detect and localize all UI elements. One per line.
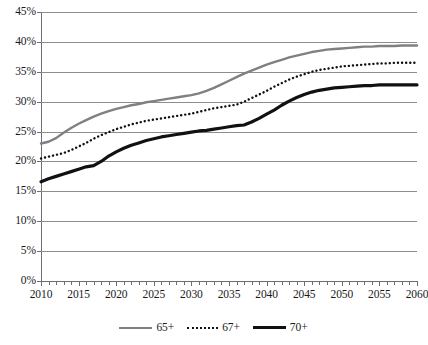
x-tick-2058 xyxy=(402,281,403,285)
legend-item-65plus[interactable]: 65+ xyxy=(119,322,174,334)
x-tick-2043 xyxy=(289,281,290,285)
x-tick-2041 xyxy=(274,281,275,285)
y-axis-label-25: 25% xyxy=(15,126,41,138)
x-tick-2042 xyxy=(282,281,283,285)
x-axis-label-2055: 2055 xyxy=(368,289,391,301)
y-axis-label-5: 5% xyxy=(21,245,41,257)
x-tick-2048 xyxy=(327,281,328,285)
x-tick-2019 xyxy=(109,281,110,285)
x-tick-2056 xyxy=(387,281,388,285)
x-axis-label-2025: 2025 xyxy=(142,289,165,301)
legend-line-swatch-70plus xyxy=(253,326,286,329)
x-tick-2011 xyxy=(49,281,50,285)
legend-line-swatch-65plus xyxy=(119,327,152,329)
y-axis-label-30: 30% xyxy=(15,96,41,108)
data-series-layer xyxy=(41,12,417,281)
x-axis-label-2060: 2060 xyxy=(406,289,428,301)
x-tick-2033 xyxy=(214,281,215,285)
x-tick-2055 xyxy=(379,281,380,286)
x-axis-label-2050: 2050 xyxy=(330,289,353,301)
y-axis-label-45: 45% xyxy=(15,6,41,18)
x-tick-2016 xyxy=(86,281,87,285)
legend-label-65plus: 65+ xyxy=(156,322,174,334)
series-line-67plus xyxy=(41,63,417,159)
x-tick-2047 xyxy=(319,281,320,285)
x-tick-2031 xyxy=(199,281,200,285)
x-tick-2040 xyxy=(267,281,268,286)
x-tick-2035 xyxy=(229,281,230,286)
x-tick-2044 xyxy=(297,281,298,285)
legend-label-67plus: 67+ xyxy=(222,322,240,334)
x-axis-label-2020: 2020 xyxy=(105,289,128,301)
x-tick-2026 xyxy=(161,281,162,285)
y-axis-label-40: 40% xyxy=(15,36,41,48)
x-tick-2024 xyxy=(146,281,147,285)
legend-item-70plus[interactable]: 70+ xyxy=(253,322,308,334)
x-tick-2052 xyxy=(357,281,358,285)
y-axis-label-20: 20% xyxy=(15,156,41,168)
series-line-65plus xyxy=(41,45,417,143)
x-tick-2010 xyxy=(41,281,42,286)
x-tick-2049 xyxy=(334,281,335,285)
x-tick-2050 xyxy=(342,281,343,286)
chart-legend: 65+ 67+ 70+ xyxy=(0,322,427,334)
x-tick-2018 xyxy=(101,281,102,285)
x-tick-2036 xyxy=(237,281,238,285)
x-tick-2038 xyxy=(252,281,253,285)
legend-line-swatch-67plus xyxy=(187,327,218,329)
y-axis-label-35: 35% xyxy=(15,66,41,78)
x-tick-2037 xyxy=(244,281,245,285)
x-tick-2015 xyxy=(79,281,80,286)
x-axis-label-2010: 2010 xyxy=(30,289,53,301)
x-tick-2025 xyxy=(154,281,155,286)
x-tick-2059 xyxy=(409,281,410,285)
x-tick-2013 xyxy=(64,281,65,285)
legend-label-70plus: 70+ xyxy=(290,322,308,334)
x-tick-2051 xyxy=(349,281,350,285)
x-axis-label-2045: 2045 xyxy=(293,289,316,301)
x-axis-label-2035: 2035 xyxy=(218,289,241,301)
x-tick-2039 xyxy=(259,281,260,285)
plot-area: 45%40%35%30%25%20%15%10%5%0% 20102015202… xyxy=(41,12,417,281)
x-axis-label-2040: 2040 xyxy=(255,289,278,301)
x-tick-2020 xyxy=(116,281,117,286)
x-tick-2046 xyxy=(312,281,313,285)
x-tick-2057 xyxy=(394,281,395,285)
x-tick-2027 xyxy=(169,281,170,285)
x-tick-2030 xyxy=(191,281,192,286)
x-tick-2054 xyxy=(372,281,373,285)
x-tick-2012 xyxy=(56,281,57,285)
x-tick-2045 xyxy=(304,281,305,286)
y-axis-label-15: 15% xyxy=(15,186,41,198)
legend-item-67plus[interactable]: 67+ xyxy=(187,322,240,334)
x-tick-2021 xyxy=(124,281,125,285)
series-line-70plus xyxy=(41,85,417,182)
x-tick-2023 xyxy=(139,281,140,285)
y-axis-label-0: 0% xyxy=(21,275,41,287)
x-axis-label-2030: 2030 xyxy=(180,289,203,301)
x-tick-2034 xyxy=(221,281,222,285)
x-tick-2032 xyxy=(206,281,207,285)
x-tick-2028 xyxy=(176,281,177,285)
x-tick-2029 xyxy=(184,281,185,285)
y-axis-label-10: 10% xyxy=(15,215,41,227)
x-tick-2022 xyxy=(131,281,132,285)
x-tick-2014 xyxy=(71,281,72,285)
x-tick-2053 xyxy=(364,281,365,285)
x-tick-2017 xyxy=(94,281,95,285)
x-tick-2060 xyxy=(417,281,418,286)
x-axis-label-2015: 2015 xyxy=(67,289,90,301)
